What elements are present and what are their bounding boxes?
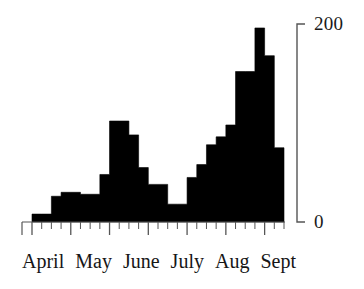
histogram-bar [32, 214, 42, 222]
x-axis-label-aug: Aug [215, 250, 249, 272]
histogram-bar [236, 72, 246, 222]
histogram-bar [265, 56, 275, 222]
histogram-bar [42, 214, 52, 222]
x-axis [22, 222, 285, 235]
chart-canvas [0, 0, 364, 289]
histogram-bar [51, 196, 61, 222]
histogram-bar [61, 192, 71, 222]
histogram-bar [274, 148, 284, 222]
histogram-bar [168, 204, 178, 222]
histogram-bar [226, 125, 236, 222]
histogram-bar [158, 184, 168, 222]
histogram-bar [90, 194, 100, 222]
histogram-bar [245, 72, 255, 222]
histogram-bar [80, 194, 90, 222]
histogram-figure: 200 0 April May June July Aug Sept [0, 0, 364, 289]
x-axis-label-july: July [171, 250, 204, 272]
x-axis-label-may: May [75, 250, 112, 272]
histogram-bar [187, 177, 197, 222]
x-axis-label-april: April [22, 250, 64, 272]
x-axis-label-june: June [123, 250, 160, 272]
y-axis-tick-label-0: 0 [314, 212, 324, 231]
histogram-bar [129, 135, 139, 222]
histogram-bar [139, 168, 149, 222]
histogram-bar [206, 145, 216, 222]
histogram-bar [148, 184, 158, 222]
y-axis-bracket [297, 24, 305, 222]
histogram-bar [216, 137, 226, 222]
y-axis-tick-label-200: 200 [314, 14, 343, 33]
histogram-bar [255, 28, 265, 222]
x-axis-month-labels: April May June July Aug Sept [22, 250, 296, 272]
y-axis [297, 24, 305, 222]
x-axis-label-sept: Sept [260, 250, 296, 272]
histogram-bar [177, 204, 187, 222]
histogram-bar [71, 192, 81, 222]
bars-group [32, 28, 284, 222]
histogram-bar [100, 174, 110, 222]
histogram-bar [119, 121, 129, 222]
histogram-bar [197, 165, 207, 222]
histogram-bar [110, 121, 120, 222]
